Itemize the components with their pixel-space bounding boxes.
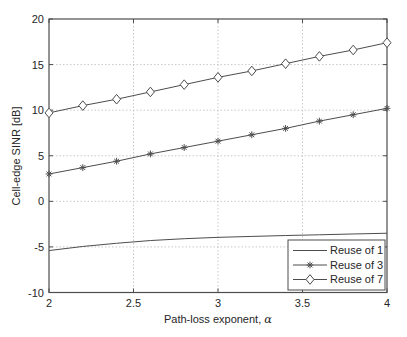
x-tick-label: 2 [46,297,52,309]
legend-label-reuse-of-3: Reuse of 3 [330,258,383,272]
x-tick-label: 3.5 [295,297,310,309]
chart-canvas: 22.533.54-10-505101520 [0,0,407,337]
x-tick-label: 4 [384,297,390,309]
series-markers-reuse-of-7 [45,38,391,118]
y-axis-label: Cell-edge SINR [dB] [9,76,23,236]
y-tick-label: -10 [28,287,44,299]
y-tick-label: 5 [38,150,44,162]
y-tick-label: 0 [38,195,44,207]
y-tick-label: -5 [34,241,44,253]
y-tick-label: 20 [32,13,44,25]
x-tick-label: 2.5 [126,297,141,309]
legend-label-reuse-of-7: Reuse of 7 [330,272,383,286]
x-axis-label-text: Path-loss exponent, [164,313,261,325]
y-tick-label: 15 [32,59,44,71]
x-axis-label: Path-loss exponent,α [118,312,318,326]
x-tick-labels: 22.533.54 [46,297,390,309]
figure: 22.533.54-10-505101520 Path-loss exponen… [0,0,407,337]
y-tick-label: 10 [32,104,44,116]
x-axis-label-alpha-symbol: α [264,312,272,326]
legend-label-reuse-of-1: Reuse of 1 [330,243,383,257]
x-tick-label: 3 [215,297,221,309]
y-tick-labels: -10-505101520 [28,13,44,299]
legend-sample-asterisk-marker [307,262,314,269]
